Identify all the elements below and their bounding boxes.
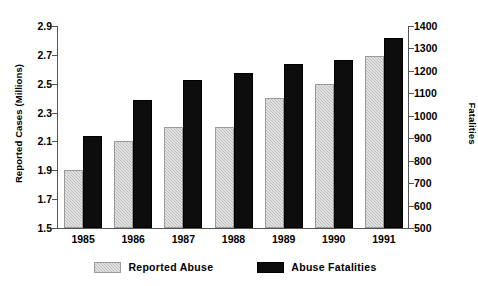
plot-area	[58, 26, 409, 228]
y-axis-right-tick-label: 1300	[414, 43, 454, 54]
y-axis-right-tick-label: 1200	[414, 66, 454, 77]
y-axis-right-title: Fatalities	[467, 44, 478, 204]
bar-reported-abuse	[365, 56, 384, 228]
bar-abuse-fatalities	[83, 136, 102, 228]
y-axis-right-tick-label: 1400	[414, 21, 454, 32]
y-axis-left-tick-label: 2.3	[20, 108, 52, 119]
x-axis-tick-label: 1991	[359, 233, 409, 245]
legend-label: Reported Abuse	[128, 261, 213, 273]
y-axis-left-tick-label: 1.5	[20, 223, 52, 234]
y-axis-right-tick-mark	[409, 116, 414, 117]
bar-group	[315, 26, 353, 228]
legend-item: Abuse Fatalities	[257, 261, 376, 273]
x-axis-tick-label: 1989	[259, 233, 309, 245]
y-axis-right-tick-label: 1100	[414, 88, 454, 99]
x-axis-line	[57, 228, 409, 229]
bar-group	[215, 26, 253, 228]
y-axis-left-tick-mark	[52, 228, 57, 229]
y-axis-left-tick-label: 2.7	[20, 50, 52, 61]
y-axis-right-tick-mark	[409, 71, 414, 72]
y-axis-right-tick-mark	[409, 48, 414, 49]
bar-abuse-fatalities	[384, 38, 403, 228]
bar-reported-abuse	[265, 98, 284, 228]
bar-group	[64, 26, 102, 228]
bar-reported-abuse	[114, 141, 133, 228]
y-axis-left-tick-mark	[52, 141, 57, 142]
x-axis-tick-label: 1987	[158, 233, 208, 245]
y-axis-right-tick-label: 700	[414, 178, 454, 189]
bar-abuse-fatalities	[334, 60, 353, 228]
legend-swatch-reported	[94, 262, 121, 273]
bar-group	[164, 26, 202, 228]
y-axis-right-tick-mark	[409, 138, 414, 139]
bar-reported-abuse	[215, 127, 234, 228]
y-axis-left-tick-mark	[52, 170, 57, 171]
chart-legend: Reported AbuseAbuse Fatalities	[0, 258, 471, 276]
y-axis-left-tick-label: 1.9	[20, 165, 52, 176]
y-axis-right-tick-labels: 50060070080090010001100120013001400	[414, 0, 454, 286]
y-axis-left-tick-mark	[52, 55, 57, 56]
y-axis-right-tick-label: 800	[414, 156, 454, 167]
y-axis-left-tick-label: 2.1	[20, 136, 52, 147]
y-axis-right-tick-mark	[409, 161, 414, 162]
y-axis-right-tick-mark	[409, 93, 414, 94]
x-axis-tick-label: 1990	[309, 233, 359, 245]
x-axis-tick-labels: 1985198619871988198919901991	[58, 233, 409, 249]
bar-abuse-fatalities	[284, 64, 303, 228]
x-axis-tick-label: 1986	[108, 233, 158, 245]
y-axis-right-tick-mark	[409, 183, 414, 184]
bar-abuse-fatalities	[183, 80, 202, 228]
y-axis-right-tick-mark	[409, 26, 414, 27]
bar-reported-abuse	[64, 170, 83, 228]
y-axis-right-tick-label: 600	[414, 201, 454, 212]
bar-group	[114, 26, 152, 228]
y-axis-right-tick-label: 1000	[414, 111, 454, 122]
legend-item: Reported Abuse	[94, 261, 213, 273]
legend-swatch-fatalities	[257, 262, 284, 273]
y-axis-left-tick-mark	[52, 26, 57, 27]
y-axis-left-tick-mark	[52, 113, 57, 114]
y-axis-left-tick-label: 2.5	[20, 79, 52, 90]
legend-label: Abuse Fatalities	[291, 261, 376, 273]
bar-group	[265, 26, 303, 228]
y-axis-left-tick-mark	[52, 84, 57, 85]
y-axis-left-tick-mark	[52, 199, 57, 200]
y-axis-left-tick-label: 1.7	[20, 194, 52, 205]
x-axis-tick-label: 1985	[58, 233, 108, 245]
bar-group	[365, 26, 403, 228]
y-axis-right-tick-label: 500	[414, 223, 454, 234]
y-axis-right-tick-mark	[409, 206, 414, 207]
bar-reported-abuse	[164, 127, 183, 228]
bar-reported-abuse	[315, 84, 334, 228]
y-axis-left-tick-label: 2.9	[20, 21, 52, 32]
y-axis-right-tick-mark	[409, 228, 414, 229]
y-axis-left-tick-labels: 1.51.71.92.12.32.52.72.9	[20, 0, 52, 286]
bar-abuse-fatalities	[234, 73, 253, 228]
x-axis-tick-label: 1988	[208, 233, 258, 245]
y-axis-right-tick-label: 900	[414, 133, 454, 144]
bar-abuse-fatalities	[133, 100, 152, 228]
